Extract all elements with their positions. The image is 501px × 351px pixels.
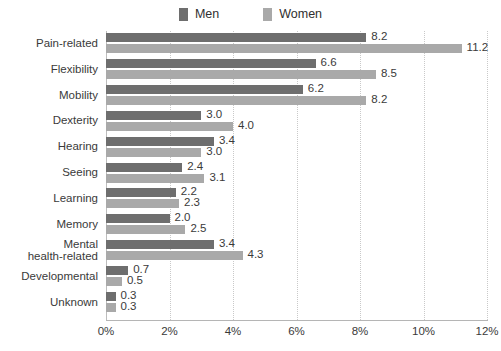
category-label: Unknown bbox=[0, 296, 98, 309]
bar-value-label: 8.5 bbox=[381, 69, 397, 78]
bar-women bbox=[106, 303, 116, 312]
category-label-line: Flexibility bbox=[0, 63, 98, 76]
bar-women bbox=[106, 174, 204, 183]
bar-value-label: 2.5 bbox=[190, 224, 206, 233]
bar-value-label: 4.0 bbox=[238, 121, 254, 130]
square-swatch-icon bbox=[179, 8, 188, 21]
bar-group: Mentalhealth-related3.44.3 bbox=[0, 240, 501, 266]
category-label-line: Hearing bbox=[0, 140, 98, 153]
category-label: Pain-related bbox=[0, 37, 98, 50]
category-label-line: Developmental bbox=[0, 270, 98, 283]
bar-women bbox=[106, 96, 366, 105]
x-tick-label: 6% bbox=[288, 325, 305, 337]
category-label-line: Seeing bbox=[0, 166, 98, 179]
bar-group: Dexterity3.04.0 bbox=[0, 111, 501, 137]
bar-group: Hearing3.43.0 bbox=[0, 137, 501, 163]
legend-item-men: Men bbox=[179, 8, 219, 21]
bar-men bbox=[106, 111, 201, 120]
bar-value-label: 8.2 bbox=[371, 95, 387, 104]
bar-value-label: 11.2 bbox=[467, 43, 489, 52]
category-label: Mobility bbox=[0, 89, 98, 102]
bar-women bbox=[106, 225, 185, 234]
bar-value-label: 0.3 bbox=[121, 302, 137, 311]
bar-men bbox=[106, 214, 170, 223]
bar-men bbox=[106, 163, 182, 172]
bar-group: Mobility6.28.2 bbox=[0, 85, 501, 111]
category-label-line: Mental bbox=[0, 238, 98, 251]
category-label-line: Learning bbox=[0, 192, 98, 205]
bar-men bbox=[106, 292, 116, 301]
bar-value-label: 3.0 bbox=[206, 110, 222, 119]
bar-men bbox=[106, 85, 303, 94]
x-tick-label: 10% bbox=[412, 325, 435, 337]
category-label-line: Memory bbox=[0, 218, 98, 231]
category-label-line: Dexterity bbox=[0, 114, 98, 127]
category-label-line: Pain-related bbox=[0, 37, 98, 50]
bar-group: Learning2.22.3 bbox=[0, 188, 501, 214]
bar-value-label: 2.2 bbox=[181, 187, 197, 196]
x-tick-label: 12% bbox=[475, 325, 498, 337]
category-label: Developmental bbox=[0, 270, 98, 283]
category-label-line: Unknown bbox=[0, 296, 98, 309]
bar-value-label: 3.0 bbox=[206, 147, 222, 156]
bar-women bbox=[106, 277, 122, 286]
category-label: Hearing bbox=[0, 140, 98, 153]
bar-value-label: 2.3 bbox=[184, 198, 200, 207]
bar-value-label: 3.4 bbox=[219, 239, 235, 248]
bar-group: Pain-related8.211.2 bbox=[0, 33, 501, 59]
bar-value-label: 3.4 bbox=[219, 136, 235, 145]
category-label: Flexibility bbox=[0, 63, 98, 76]
bar-group: Memory2.02.5 bbox=[0, 214, 501, 240]
bar-group: Seeing2.43.1 bbox=[0, 163, 501, 189]
bar-women bbox=[106, 251, 243, 260]
bar-women bbox=[106, 122, 233, 131]
bar-value-label: 6.6 bbox=[321, 58, 337, 67]
bar-value-label: 6.2 bbox=[308, 84, 324, 93]
bar-group: Developmental0.70.5 bbox=[0, 266, 501, 292]
bar-men bbox=[106, 137, 214, 146]
category-label: Mentalhealth-related bbox=[0, 238, 98, 263]
bar-value-label: 2.4 bbox=[187, 162, 203, 171]
bar-value-label: 2.0 bbox=[175, 213, 191, 222]
bar-men bbox=[106, 266, 128, 275]
bar-men bbox=[106, 33, 366, 42]
bar-men bbox=[106, 188, 176, 197]
square-swatch-icon bbox=[263, 8, 272, 21]
x-tick-label: 0% bbox=[98, 325, 115, 337]
x-tick-label: 4% bbox=[225, 325, 242, 337]
bar-value-label: 4.3 bbox=[248, 250, 264, 259]
bar-men bbox=[106, 59, 316, 68]
bar-group: Flexibility6.68.5 bbox=[0, 59, 501, 85]
bar-value-label: 0.5 bbox=[127, 276, 143, 285]
legend-label-women: Women bbox=[279, 8, 322, 21]
x-tick-label: 8% bbox=[352, 325, 369, 337]
bar-men bbox=[106, 240, 214, 249]
chart-legend: Men Women bbox=[0, 8, 501, 21]
category-label: Memory bbox=[0, 218, 98, 231]
legend-label-men: Men bbox=[195, 8, 219, 21]
category-label: Learning bbox=[0, 192, 98, 205]
bar-value-label: 0.3 bbox=[121, 291, 137, 300]
x-tick-label: 2% bbox=[161, 325, 178, 337]
bar-women bbox=[106, 44, 462, 53]
category-label-line: Mobility bbox=[0, 89, 98, 102]
bar-value-label: 0.7 bbox=[133, 265, 149, 274]
category-label-line: health-related bbox=[0, 250, 98, 263]
bar-value-label: 3.1 bbox=[209, 173, 225, 182]
bar-value-label: 8.2 bbox=[371, 32, 387, 41]
bar-women bbox=[106, 70, 376, 79]
bar-group: Unknown0.30.3 bbox=[0, 292, 501, 318]
bar-women bbox=[106, 199, 179, 208]
category-label: Seeing bbox=[0, 166, 98, 179]
grouped-bar-chart: Men Women Pain-related8.211.2Flexibility… bbox=[0, 0, 501, 351]
legend-item-women: Women bbox=[263, 8, 322, 21]
x-axis-ticks: 0%2%4%6%8%10%12% bbox=[0, 325, 501, 345]
bar-women bbox=[106, 148, 201, 157]
category-label: Dexterity bbox=[0, 114, 98, 127]
x-axis-line bbox=[106, 320, 488, 321]
